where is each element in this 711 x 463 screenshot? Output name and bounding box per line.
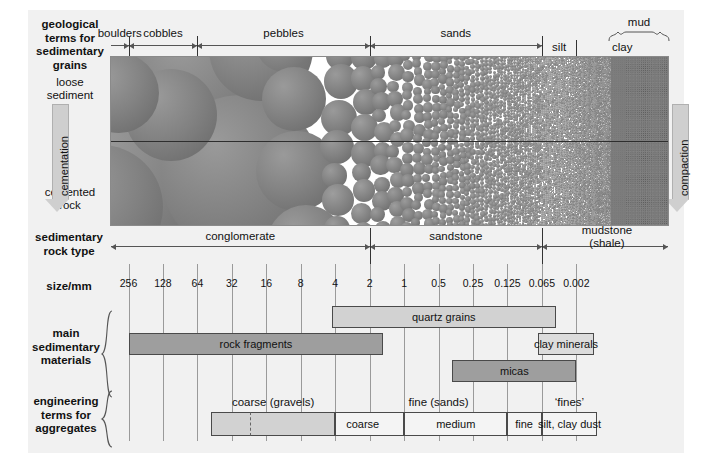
grain [519,220,522,223]
grain [476,225,482,226]
grain [668,64,669,65]
grain [668,83,669,84]
grain [668,117,669,118]
grain [413,94,423,104]
grain [668,135,669,136]
mud-label: mud [608,16,670,29]
grain [447,59,453,65]
grain [668,100,669,101]
grain [668,182,669,183]
row-label-size-axis: size/mm [30,280,108,294]
divider-conglomerate-sandstone [370,228,371,268]
grain [668,184,669,185]
grain [668,186,669,187]
grain [668,95,669,96]
grain [668,124,669,125]
range-line-pebbles [197,45,369,46]
grain [668,118,669,119]
grain [668,180,669,181]
grain [668,67,669,68]
material-bar-rock-fragments: rock fragments [129,333,384,355]
grain [668,125,669,126]
grain [668,84,669,85]
grain [668,171,669,172]
range-label-sands: sands [330,27,582,40]
grain [668,109,669,110]
brace-main-materials [100,310,114,398]
divider-cobbles-pebbles [197,36,198,56]
grain [488,70,492,74]
grain [668,185,669,186]
grain [401,110,411,120]
state-label-cemented-rock: cemented rock [30,186,110,212]
row-label-engineering-terms: engineering terms for aggregates [24,395,108,436]
grain [411,200,421,210]
grain [668,120,669,121]
grain [668,157,669,158]
grain [668,104,669,105]
grain [668,154,669,155]
grain [668,159,669,160]
grain [668,219,669,220]
grain [668,172,669,173]
engineering-segment-gravel-1 [251,412,335,436]
grain [668,170,669,171]
engineering-group-label-2: ‘fines’ [514,396,624,409]
grain [668,60,669,61]
range-line-sands [370,45,542,46]
material-bar-clay-minerals: clay minerals [538,333,593,355]
grain [668,220,669,221]
grain [668,164,669,165]
grain [668,93,669,94]
grain [668,134,669,135]
grain [668,214,669,215]
grain [668,86,669,87]
grain [668,102,669,103]
grain [668,219,669,220]
grain [453,107,458,112]
grain [386,145,398,157]
grain [668,194,669,195]
grain [262,67,326,131]
engineering-segment-label: silt, clay dust [538,418,601,430]
engineering-group-label-1: fine (sands) [364,396,514,409]
grain [400,128,413,141]
grain [668,207,669,208]
grain [453,113,459,119]
grain [668,190,669,191]
grain [668,113,669,114]
grain [668,103,669,104]
grain [668,178,669,179]
material-bar-micas: micas [452,360,576,382]
size-tick-0.002: 0.002 [554,277,598,289]
grain [668,179,669,180]
grain [668,146,669,147]
grain [668,57,669,58]
row-label-main-materials: main sedimentary materials [24,327,108,368]
mud-brace [608,30,670,42]
grain [446,209,452,215]
grain [668,201,669,202]
grain [668,140,669,141]
grain [668,98,669,99]
grain [668,205,669,206]
grain [668,168,669,169]
grain [668,96,669,97]
grain [668,153,669,154]
grain [668,101,669,102]
grain [668,221,669,222]
grain [519,225,522,226]
grain [668,151,669,152]
grain [389,120,401,132]
grain [668,77,669,78]
mudstone-line-2: (shale) [536,237,678,250]
grain [668,149,669,150]
range-line-sandstone [370,246,542,247]
material-bar-label: quartz grains [412,311,476,323]
brace-engineering-terms [100,390,114,448]
grain [668,112,669,113]
grain [668,163,669,164]
grain [668,215,669,216]
grain [668,72,669,73]
grain [459,118,465,124]
